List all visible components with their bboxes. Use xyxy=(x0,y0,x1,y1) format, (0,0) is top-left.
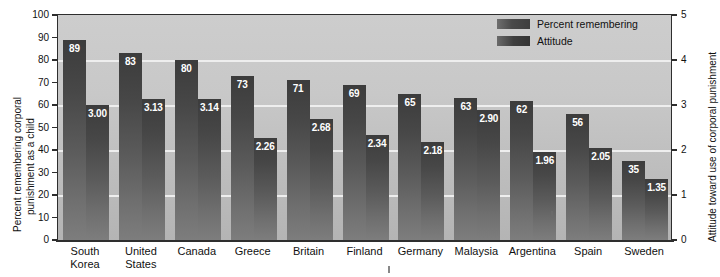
legend-label-attitude: Attitude xyxy=(537,36,573,47)
x-axis-line xyxy=(56,240,674,242)
bar-percent-remembering: 71 xyxy=(287,80,310,240)
x-axis-label: Malaysia xyxy=(444,245,508,258)
bar-percent-remembering: 63 xyxy=(454,98,477,240)
bar-value-label: 89 xyxy=(69,43,80,54)
y-tick-label-right: 5 xyxy=(681,10,687,20)
y-tick-label-right: 4 xyxy=(681,55,687,65)
y-tick-label-left: 20 xyxy=(11,190,49,200)
bar-group: 712.68 xyxy=(287,15,333,240)
legend-item-attitude: Attitude xyxy=(497,34,638,48)
y-tick-label-left: 10 xyxy=(11,213,49,223)
y-tick-label-left: 30 xyxy=(11,168,49,178)
bar-attitude: 2.90 xyxy=(477,110,500,241)
y-tick-right xyxy=(672,59,677,61)
bar-percent-remembering: 69 xyxy=(343,85,366,240)
bar-percent-remembering: 62 xyxy=(510,101,533,241)
bar-value-label: 80 xyxy=(181,63,192,74)
y-tick-label-left: 60 xyxy=(11,100,49,110)
bar-value-label: 3.00 xyxy=(88,108,107,119)
caption-speck-artifact xyxy=(388,266,390,273)
bar-percent-remembering: 73 xyxy=(231,76,254,240)
bar-attitude: 3.14 xyxy=(198,99,221,240)
bar-attitude: 2.34 xyxy=(366,135,389,240)
legend-item-percent-remembering: Percent remembering xyxy=(497,17,638,31)
x-axis-label: Spain xyxy=(556,245,620,258)
bar-value-label: 2.26 xyxy=(256,141,275,152)
bar-group: 893.00 xyxy=(63,15,109,240)
bar-value-label: 2.90 xyxy=(479,113,498,124)
y-tick-label-right: 1 xyxy=(681,190,687,200)
x-axis-label: Sweden xyxy=(612,245,676,258)
x-axis-label: Canada xyxy=(165,245,229,258)
y-tick-label-left: 90 xyxy=(11,33,49,43)
bar-value-label: 35 xyxy=(628,164,639,175)
y-tick-right xyxy=(672,104,677,106)
bar-value-label: 69 xyxy=(349,88,360,99)
bar-value-label: 3.13 xyxy=(144,102,163,113)
bar-attitude: 2.05 xyxy=(589,148,612,240)
bar-value-label: 2.18 xyxy=(424,145,443,156)
bar-value-label: 71 xyxy=(293,83,304,94)
y-axis-right-title-text: Attitude toward use of corporal punishme… xyxy=(707,52,718,242)
legend-swatch-attitude-icon xyxy=(497,36,530,46)
bar-group: 692.34 xyxy=(343,15,389,240)
bar-value-label: 1.96 xyxy=(535,155,554,166)
bar-percent-remembering: 65 xyxy=(398,94,421,240)
bar-percent-remembering: 80 xyxy=(175,60,198,240)
bar-percent-remembering: 56 xyxy=(566,114,589,240)
legend-swatch-percent-remembering-icon xyxy=(497,19,530,29)
x-axis-label: South Korea xyxy=(53,245,117,271)
y-tick-label-left: 70 xyxy=(11,78,49,88)
bar-value-label: 83 xyxy=(125,56,136,67)
y-tick-label-left: 50 xyxy=(11,123,49,133)
chart-screenshot: Percent remembering corporal punishment … xyxy=(0,0,720,277)
bar-value-label: 63 xyxy=(460,101,471,112)
bar-value-label: 56 xyxy=(572,117,583,128)
x-axis-label: Greece xyxy=(221,245,285,258)
y-tick-label-left: 80 xyxy=(11,55,49,65)
bar-value-label: 2.05 xyxy=(591,151,610,162)
bar-percent-remembering: 35 xyxy=(622,161,645,240)
y-axis-right-title: Attitude toward use of corporal punishme… xyxy=(707,52,719,242)
x-axis-label: Germany xyxy=(388,245,452,258)
bar-attitude: 2.18 xyxy=(421,142,444,240)
bar-group: 632.90 xyxy=(454,15,500,240)
bar-value-label: 1.35 xyxy=(647,182,666,193)
bar-attitude: 2.26 xyxy=(254,138,277,240)
x-axis-label: Argentina xyxy=(500,245,564,258)
bar-percent-remembering: 83 xyxy=(119,53,142,240)
y-tick-label-left: 40 xyxy=(11,145,49,155)
bar-value-label: 2.34 xyxy=(368,138,387,149)
bar-value-label: 62 xyxy=(516,104,527,115)
x-axis-label: Finland xyxy=(333,245,397,258)
x-axis-label: United States xyxy=(109,245,173,271)
speck-artifact xyxy=(551,211,553,218)
bar-percent-remembering: 89 xyxy=(63,40,86,240)
y-tick-label-right: 2 xyxy=(681,145,687,155)
y-tick-right xyxy=(672,149,677,151)
bar-value-label: 3.14 xyxy=(200,102,219,113)
x-axis-label: Britain xyxy=(277,245,341,258)
bar-group: 803.14 xyxy=(175,15,221,240)
bar-group: 652.18 xyxy=(398,15,444,240)
bar-value-label: 65 xyxy=(405,97,416,108)
bar-attitude: 3.00 xyxy=(86,105,109,240)
bar-attitude: 3.13 xyxy=(142,99,165,240)
bar-attitude: 1.35 xyxy=(645,179,668,240)
y-tick-label-right: 3 xyxy=(681,100,687,110)
bar-attitude: 2.68 xyxy=(310,119,333,240)
y-tick-label-right: 0 xyxy=(681,235,687,245)
bar-value-label: 2.68 xyxy=(312,122,331,133)
y-tick-right xyxy=(672,194,677,196)
bar-value-label: 73 xyxy=(237,79,248,90)
bar-attitude: 1.96 xyxy=(533,152,556,240)
y-tick-label-left: 0 xyxy=(11,235,49,245)
chart-legend: Percent remembering Attitude xyxy=(497,17,638,51)
legend-label-percent-remembering: Percent remembering xyxy=(537,19,638,30)
bar-group: 732.26 xyxy=(231,15,277,240)
y-tick-label-left: 100 xyxy=(11,10,49,20)
bar-group: 833.13 xyxy=(119,15,165,240)
